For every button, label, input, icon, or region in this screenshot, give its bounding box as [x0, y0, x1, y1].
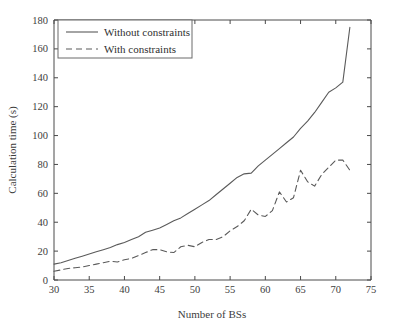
chart-tick-marks [54, 20, 371, 280]
y-tick-label: 160 [32, 43, 48, 54]
y-tick-label: 80 [38, 159, 49, 170]
chart-series-lines [54, 27, 350, 271]
y-tick-label: 20 [38, 246, 49, 257]
x-tick-label: 65 [295, 284, 306, 295]
y-axis-tick-labels: 020406080100120140160180 [32, 15, 48, 286]
legend-label-1: With constraints [104, 43, 176, 55]
y-axis-title: Calculation time (s) [6, 106, 19, 194]
x-tick-label: 50 [190, 284, 201, 295]
chart-legend: Without constraintsWith constraints [58, 20, 192, 58]
x-tick-label: 30 [49, 284, 60, 295]
x-tick-label: 45 [154, 284, 165, 295]
chart-figure: 30354045505560657075 0204060801001201401… [0, 0, 408, 327]
axis-left-bottom [54, 20, 371, 280]
series-line-1 [54, 160, 350, 271]
y-tick-label: 180 [32, 15, 48, 26]
x-tick-label: 75 [366, 284, 377, 295]
x-tick-label: 70 [331, 284, 342, 295]
line-chart: 30354045505560657075 0204060801001201401… [0, 0, 408, 327]
axis-top-right [54, 20, 371, 280]
y-tick-label: 120 [32, 101, 48, 112]
chart-axes [54, 20, 371, 280]
legend-label-0: Without constraints [104, 26, 190, 38]
x-axis-tick-labels: 30354045505560657075 [49, 284, 377, 295]
x-tick-label: 35 [84, 284, 95, 295]
x-tick-label: 40 [119, 284, 130, 295]
y-tick-label: 140 [32, 72, 48, 83]
x-axis-title: Number of BSs [178, 308, 246, 320]
series-line-0 [54, 27, 350, 264]
y-tick-label: 40 [38, 217, 49, 228]
x-tick-label: 60 [260, 284, 271, 295]
y-tick-label: 60 [38, 188, 49, 199]
y-tick-label: 0 [43, 275, 48, 286]
x-tick-label: 55 [225, 284, 236, 295]
y-tick-label: 100 [32, 130, 48, 141]
